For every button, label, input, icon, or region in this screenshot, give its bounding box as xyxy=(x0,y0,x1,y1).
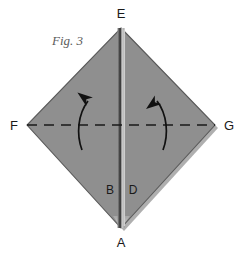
label-D: D xyxy=(129,183,138,197)
label-A: A xyxy=(117,235,126,250)
label-E: E xyxy=(117,6,126,21)
label-F: F xyxy=(10,118,18,133)
label-B: B xyxy=(106,183,114,197)
figure-caption: Fig. 3 xyxy=(51,33,84,48)
vertical-center-crease xyxy=(118,28,125,228)
figure-container: Fig. 3 E F G A B D xyxy=(0,0,242,253)
label-G: G xyxy=(224,118,234,133)
origami-diagram: Fig. 3 E F G A B D xyxy=(0,0,242,253)
